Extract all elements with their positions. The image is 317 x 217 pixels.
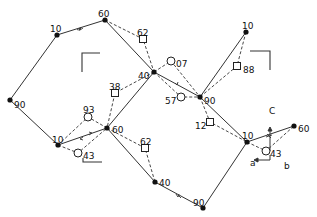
square-label: 62 <box>140 137 151 147</box>
node-label: 90 <box>14 100 26 110</box>
square-marker <box>207 119 214 126</box>
square-marker <box>234 63 241 70</box>
circle-marker <box>74 149 82 157</box>
circle-label: 07 <box>176 59 187 69</box>
axis-label-a: a <box>250 158 256 168</box>
square-label: 12 <box>195 121 206 131</box>
circle-label: 43 <box>270 149 281 159</box>
bracket-left <box>82 53 100 72</box>
node-label: 10 <box>242 21 254 31</box>
arrow-markers <box>77 27 272 198</box>
square-label: 88 <box>243 65 255 75</box>
lattice-diagram: 901060409010106040901060 6238886212 0757… <box>0 0 317 217</box>
circle-marker <box>167 57 175 65</box>
node-label: 60 <box>298 124 310 134</box>
square-label: 62 <box>137 28 148 38</box>
node-dot <box>152 179 157 184</box>
solid-edges <box>10 20 294 208</box>
node-label: 90 <box>193 198 205 208</box>
node-dot <box>197 94 202 99</box>
node-dot <box>7 97 12 102</box>
node-dot <box>104 125 109 130</box>
node-label: 10 <box>242 131 254 141</box>
circle-marker <box>177 93 185 101</box>
circle-label: 57 <box>165 96 176 106</box>
square-markers: 6238886212 <box>109 28 255 152</box>
filled-nodes: 901060409010106040901060 <box>7 9 309 211</box>
square-label: 38 <box>109 82 121 92</box>
node-dot <box>151 69 156 74</box>
circle-marker <box>262 147 270 155</box>
node-label: 90 <box>204 96 216 106</box>
node-label: 10 <box>50 24 62 34</box>
node-label: 60 <box>98 9 110 19</box>
node-label: 10 <box>52 135 64 145</box>
axis-label-c: C <box>269 106 275 116</box>
node-label: 60 <box>112 125 124 135</box>
axis-label-b: b <box>284 161 290 171</box>
circle-label: 93 <box>83 105 94 115</box>
node-dot <box>291 123 296 128</box>
node-label: 40 <box>159 178 171 188</box>
node-label: 40 <box>138 71 150 81</box>
circle-label: 43 <box>83 151 94 161</box>
